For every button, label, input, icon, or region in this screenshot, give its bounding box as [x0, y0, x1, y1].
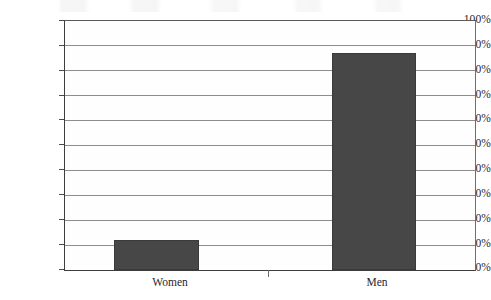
- x-label-women: Women: [120, 276, 220, 288]
- bar-men[interactable]: [332, 53, 416, 270]
- x-label-men: Men: [327, 276, 427, 288]
- bar-chart: 100% 90% 80% 70% 60% 50% 40% 30% 20% 10%…: [0, 0, 491, 300]
- scan-artifact: [0, 0, 491, 12]
- plot-area: [64, 20, 476, 271]
- bar-women[interactable]: [114, 240, 199, 270]
- category-boundary-tick: [268, 270, 269, 277]
- gridline-90: [65, 45, 475, 46]
